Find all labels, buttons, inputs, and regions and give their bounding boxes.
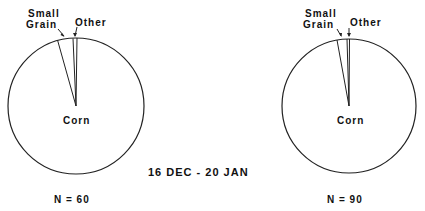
label-n: N = 90 [327, 194, 363, 205]
label-corn: Corn [337, 115, 364, 126]
label-small: Small [28, 8, 60, 19]
label-small: Small [305, 8, 337, 19]
label-n: N = 60 [54, 194, 90, 205]
arrow-head-icon [347, 33, 351, 37]
pie-charts: Small Grain Other Corn N = 60 Small Grai… [0, 0, 425, 211]
label-grain: Grain [303, 19, 334, 30]
pie-left: Small Grain Other Corn N = 60 [8, 8, 144, 205]
pie-right-other-edge-2 [349, 39, 350, 106]
pie-right: Small Grain Other Corn N = 90 [282, 8, 416, 205]
arrow-head-icon [73, 33, 77, 37]
label-corn: Corn [63, 115, 90, 126]
label-other: Other [350, 17, 382, 28]
label-grain: Grain [26, 19, 57, 30]
label-other: Other [75, 17, 107, 28]
arrow-head-icon [339, 33, 342, 37]
chart-title: 16 DEC - 20 JAN [148, 166, 249, 178]
